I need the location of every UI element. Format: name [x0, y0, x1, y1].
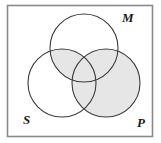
- label-p: P: [137, 115, 146, 130]
- label-m: M: [121, 10, 134, 25]
- label-s: S: [23, 112, 30, 127]
- venn-diagram-figure: M S P: [0, 0, 161, 143]
- venn-diagram-canvas: M S P: [0, 0, 161, 143]
